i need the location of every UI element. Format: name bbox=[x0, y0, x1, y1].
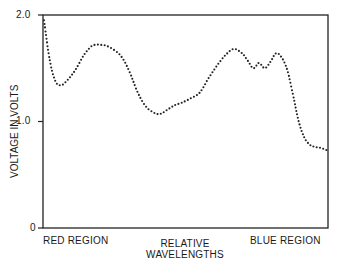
x-axis-label-line2: WAVELENGTHS bbox=[140, 249, 230, 260]
x-right-label: BLUE REGION bbox=[250, 235, 321, 246]
x-axis-label-line1: RELATIVE bbox=[140, 238, 230, 249]
y-axis-label: VOLTAGE IN VOLTS bbox=[9, 85, 20, 178]
y-tick-label-2: 2.0 bbox=[16, 9, 31, 20]
voltage-curve bbox=[43, 19, 327, 151]
chart-plot-area bbox=[0, 0, 342, 271]
plot-frame bbox=[43, 15, 328, 228]
x-left-label: RED REGION bbox=[43, 235, 108, 246]
y-tick-label-0: 0 bbox=[30, 222, 36, 233]
x-axis-label: RELATIVE WAVELENGTHS bbox=[140, 238, 230, 260]
